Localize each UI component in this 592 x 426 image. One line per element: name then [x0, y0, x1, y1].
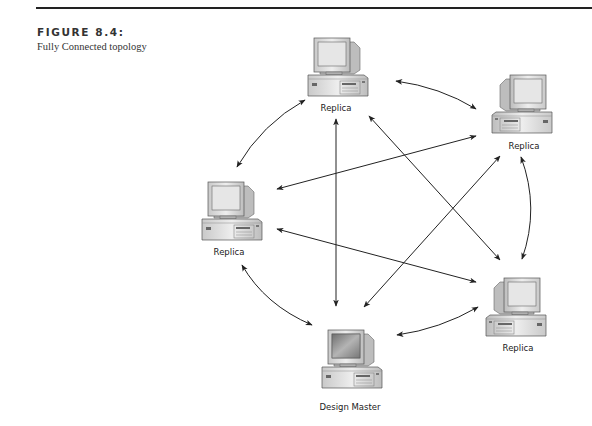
node-top-replica: [308, 38, 368, 96]
connections: [237, 81, 531, 335]
connection-top-topright: [396, 81, 476, 109]
connection-bottomright-master: [397, 307, 478, 335]
node-label-bottom-right: Replica: [503, 343, 534, 353]
computer-icon: [308, 38, 368, 96]
node-design-master: [322, 330, 382, 388]
node-top-right-replica: [492, 75, 552, 133]
connection-top-left: [237, 100, 305, 167]
node-left-replica: [202, 182, 262, 240]
topology-diagram: [0, 0, 592, 426]
node-bottom-right-replica: [486, 278, 546, 336]
connection-topright-left: [277, 136, 476, 189]
computer-icon: [486, 278, 546, 336]
connection-topright-bottomright: [521, 157, 531, 259]
node-label-design-master: Design Master: [319, 402, 380, 412]
node-label-top: Replica: [321, 103, 352, 113]
connection-master-left: [242, 265, 312, 325]
connection-left-bottomright: [277, 229, 476, 282]
connection-topright-master: [364, 156, 500, 307]
computer-icon: [202, 182, 262, 240]
connection-top-bottomright: [369, 116, 500, 260]
computer-icon: [492, 75, 552, 133]
node-label-left: Replica: [214, 247, 245, 257]
node-label-top-right: Replica: [509, 141, 540, 151]
